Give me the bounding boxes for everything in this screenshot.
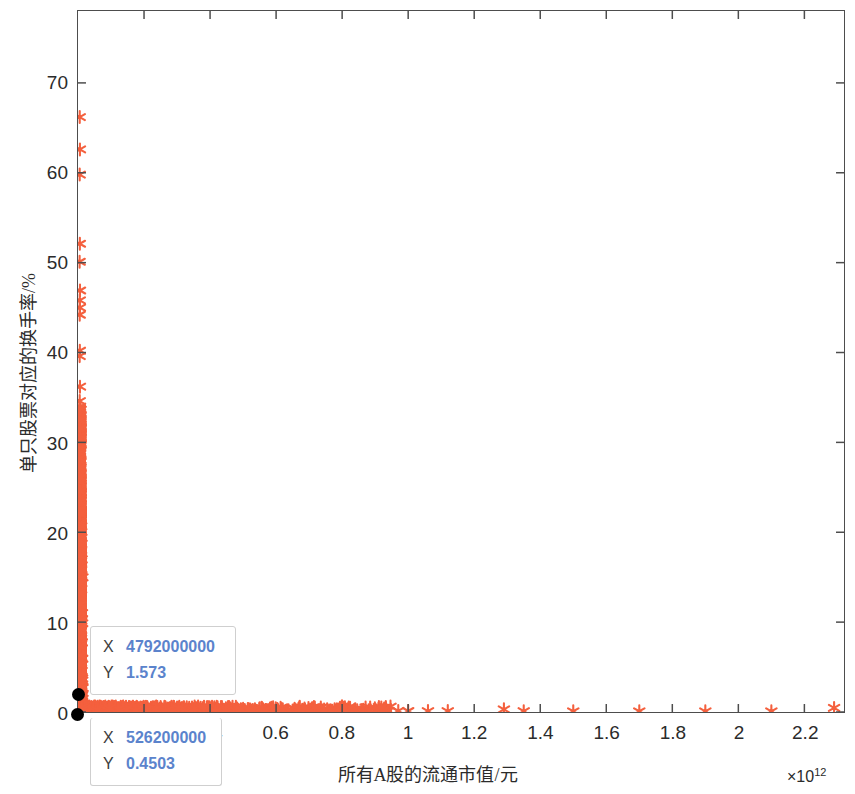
x-tick-label: 2 xyxy=(734,723,745,742)
scatter-plot-figure: 010203040506070 0.20.40.60.811.21.41.61.… xyxy=(0,0,855,794)
data-point-marker xyxy=(829,702,839,712)
y-tick-label: 70 xyxy=(20,73,68,92)
x-tick-label: 1.6 xyxy=(593,723,619,742)
datatip-y-value: 0.4503 xyxy=(126,755,175,772)
data-cursor-2-dot[interactable] xyxy=(71,708,84,721)
datatip-x-value: 4792000000 xyxy=(126,638,215,655)
data-cursor-tooltip-2[interactable]: X526200000 Y0.4503 xyxy=(90,718,222,786)
datatip-y-key: Y xyxy=(103,751,120,777)
datatip-y-row: Y0.4503 xyxy=(103,751,209,777)
x-tick-label: 1 xyxy=(403,723,414,742)
x-tick-label: 2.2 xyxy=(792,723,818,742)
data-point-marker xyxy=(568,705,578,712)
datatip-y-key: Y xyxy=(103,660,120,686)
datatip-x-row: X526200000 xyxy=(103,725,209,751)
data-point-marker xyxy=(78,111,85,123)
x-tick-label: 1.8 xyxy=(660,723,686,742)
data-point-marker xyxy=(78,256,85,268)
datatip-x-value: 526200000 xyxy=(126,729,206,746)
data-point-marker xyxy=(519,705,529,712)
x-tick-label: 1.2 xyxy=(461,723,487,742)
exponent-prefix: ×10 xyxy=(787,768,814,785)
plot-axes-box xyxy=(77,10,845,713)
data-point-marker xyxy=(78,381,85,393)
data-cursor-tooltip-1[interactable]: X4792000000 Y1.573 xyxy=(90,626,236,695)
data-point-marker xyxy=(403,705,413,712)
data-point-marker xyxy=(443,705,453,712)
y-tick-label: 0 xyxy=(20,704,68,723)
datatip-x-key: X xyxy=(103,634,120,660)
exponent-power: 12 xyxy=(814,766,826,778)
x-tick-label: 0.6 xyxy=(262,723,288,742)
datatip-y-value: 1.573 xyxy=(126,664,166,681)
data-point-marker xyxy=(499,703,509,712)
data-point-marker xyxy=(634,705,644,712)
data-point-layer xyxy=(78,11,844,712)
datatip-x-row: X4792000000 xyxy=(103,634,223,660)
data-point-marker xyxy=(700,705,710,712)
data-point-marker xyxy=(78,169,85,181)
x-tick-label: 1.4 xyxy=(527,723,553,742)
data-point-marker xyxy=(78,143,85,155)
y-tick-label: 60 xyxy=(20,163,68,182)
datatip-x-key: X xyxy=(103,725,120,751)
x-axis-exponent-multiplier: ×1012 xyxy=(787,766,826,786)
x-tick-label: 0.8 xyxy=(329,723,355,742)
datatip-y-row: Y1.573 xyxy=(103,660,223,686)
y-axis-label: 单只股票对应的换手率/% xyxy=(14,183,40,563)
data-point-marker xyxy=(766,705,776,712)
data-point-marker xyxy=(423,705,433,712)
data-point-marker xyxy=(78,238,85,250)
y-tick-label: 10 xyxy=(20,613,68,632)
